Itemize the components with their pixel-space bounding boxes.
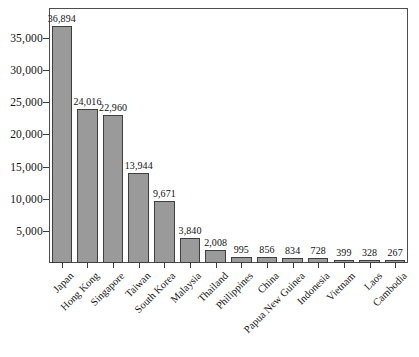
bar-value-label: 834 xyxy=(285,245,300,256)
bar-chart: 5,00010,00015,00020,00025,00030,00035,00… xyxy=(0,0,419,357)
bar-value-label: 856 xyxy=(259,244,274,255)
bar xyxy=(180,238,201,263)
x-tick-mark xyxy=(318,263,319,268)
bar-value-label: 267 xyxy=(388,247,403,258)
bar-value-label: 9,671 xyxy=(153,188,176,199)
bar-value-label: 728 xyxy=(311,245,326,256)
x-tick-mark xyxy=(395,263,396,268)
bar xyxy=(128,173,149,263)
bar-value-label: 399 xyxy=(336,247,351,258)
bar-value-label: 13,944 xyxy=(125,160,153,171)
x-tick-mark xyxy=(113,263,114,268)
bar-value-label: 36,894 xyxy=(48,13,76,24)
bar xyxy=(205,250,226,263)
bar xyxy=(103,115,124,263)
x-tick-mark xyxy=(344,263,345,268)
x-tick-mark xyxy=(293,263,294,268)
bar-value-label: 24,016 xyxy=(73,96,101,107)
bar xyxy=(154,201,175,263)
x-tick-mark xyxy=(164,263,165,268)
x-tick-mark xyxy=(62,263,63,268)
bar-value-label: 2,008 xyxy=(204,237,227,248)
x-tick-mark xyxy=(87,263,88,268)
x-tick-mark xyxy=(190,263,191,268)
bar-value-label: 328 xyxy=(362,247,377,258)
bar-value-label: 3,840 xyxy=(179,225,202,236)
bar xyxy=(52,26,73,263)
bar-value-label: 995 xyxy=(234,244,249,255)
x-tick-mark xyxy=(267,263,268,268)
bar-value-label: 22,960 xyxy=(99,102,127,113)
x-tick-mark xyxy=(370,263,371,268)
x-tick-mark xyxy=(241,263,242,268)
bar xyxy=(77,109,98,263)
x-tick-mark xyxy=(139,263,140,268)
x-tick-mark xyxy=(216,263,217,268)
